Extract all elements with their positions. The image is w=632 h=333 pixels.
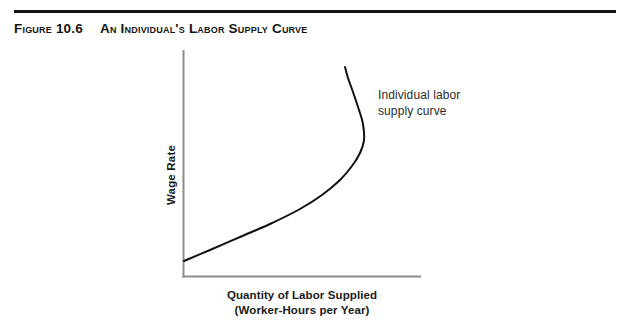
x-axis-title-line1: Quantity of Labor Supplied — [227, 289, 377, 301]
y-axis-title: Wage Rate — [163, 133, 179, 217]
chart-plot-area — [0, 0, 632, 333]
chart-svg — [0, 0, 632, 333]
labor-supply-curve — [184, 67, 364, 261]
curve-annotation-line2: supply curve — [378, 104, 460, 120]
curve-annotation-line1: Individual labor — [378, 88, 460, 102]
figure-page: Figure 10.6An Individual's Labor Supply … — [0, 0, 632, 333]
curve-annotation: Individual labor supply curve — [378, 88, 460, 119]
x-axis-title-line2: (Worker-Hours per Year) — [183, 303, 421, 318]
x-axis-title: Quantity of Labor Supplied (Worker-Hours… — [183, 288, 421, 318]
y-axis-title-label: Wage Rate — [165, 145, 177, 205]
